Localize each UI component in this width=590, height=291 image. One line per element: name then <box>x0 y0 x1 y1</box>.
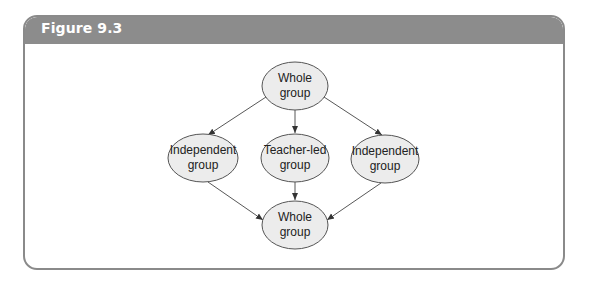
node-independent-group-left: Independent group <box>168 134 238 182</box>
edge-top-to-left <box>208 97 266 135</box>
edge-right-to-bottom <box>327 183 381 220</box>
node-label: Whole <box>278 71 312 85</box>
node-whole-group-bottom: Whole group <box>262 201 328 249</box>
node-whole-group-top: Whole group <box>262 62 328 110</box>
node-label: group <box>280 86 311 100</box>
node-label: Independent <box>352 144 419 158</box>
node-label: group <box>370 159 401 173</box>
node-label: Independent <box>170 143 237 157</box>
node-label: group <box>280 225 311 239</box>
node-independent-group-right: Independent group <box>351 135 419 183</box>
node-teacher-led-group: Teacher-led group <box>261 134 329 182</box>
node-label: Whole <box>278 210 312 224</box>
edge-top-to-right <box>324 97 382 135</box>
node-label: Teacher-led <box>264 143 327 157</box>
flow-diagram: Whole group Independent group Teacher-le… <box>0 0 590 291</box>
node-label: group <box>280 158 311 172</box>
edge-left-to-bottom <box>208 182 263 220</box>
node-label: group <box>188 158 219 172</box>
